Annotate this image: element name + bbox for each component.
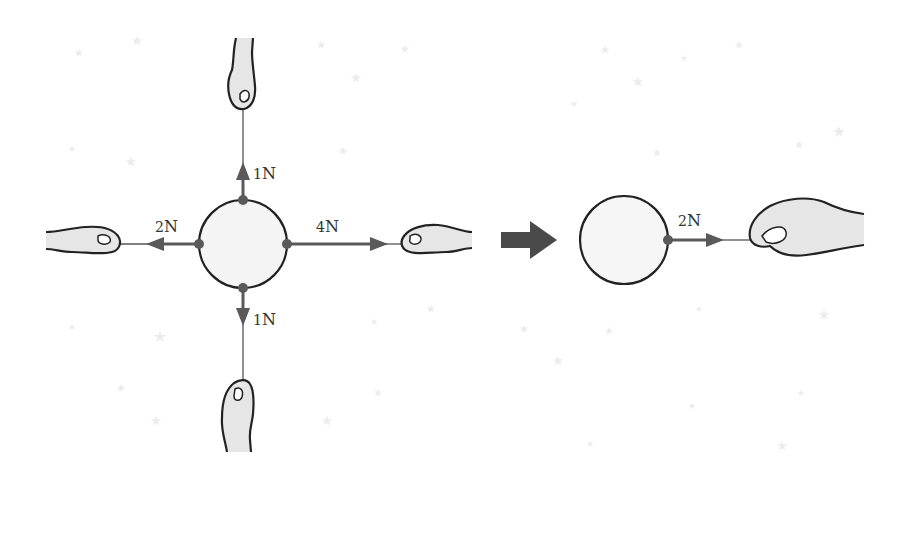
net-force-arrow — [663, 233, 724, 247]
force-unit: N — [262, 164, 276, 183]
force-label-up: 1N — [253, 166, 276, 182]
hand-icon-bottom — [222, 380, 254, 452]
force-unit: N — [164, 217, 178, 236]
object-circle — [580, 196, 668, 284]
right-scene — [580, 196, 864, 284]
diagram-canvas — [0, 0, 912, 540]
right-arrow-icon — [501, 221, 557, 259]
force-unit: N — [262, 310, 276, 329]
left-scene — [46, 38, 472, 452]
force-arrow-right — [282, 237, 388, 251]
force-unit: N — [325, 217, 339, 236]
force-value: 1 — [253, 312, 262, 328]
force-arrow-left — [146, 237, 204, 251]
object-circle — [199, 200, 287, 288]
hand-icon-net — [750, 199, 864, 256]
force-label-right: 4N — [316, 219, 339, 235]
force-arrow-down — [236, 283, 250, 326]
force-value: 2 — [155, 219, 164, 235]
force-label-left: 2N — [155, 219, 178, 235]
force-value: 1 — [253, 166, 262, 182]
force-label-down: 1N — [253, 312, 276, 328]
hand-icon-left — [46, 227, 120, 254]
force-value: 2 — [678, 213, 687, 229]
force-label-net: 2N — [678, 213, 701, 229]
force-diagram: 1N 1N 2N 4N 2N — [0, 0, 912, 540]
force-arrow-up — [236, 162, 250, 205]
hand-icon-right — [402, 225, 472, 253]
force-value: 4 — [316, 219, 325, 235]
force-unit: N — [687, 211, 701, 230]
hand-icon-top — [228, 38, 255, 109]
